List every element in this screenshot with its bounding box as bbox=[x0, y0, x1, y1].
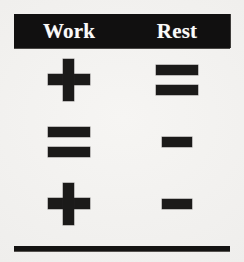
plus-icon bbox=[48, 59, 90, 101]
cell-work-row-3 bbox=[14, 178, 124, 230]
minus-icon bbox=[162, 137, 192, 147]
table-body bbox=[14, 48, 230, 238]
cell-work-row-2 bbox=[14, 116, 124, 168]
equals-icon bbox=[156, 65, 198, 95]
table-row bbox=[14, 116, 230, 168]
table-bottom-rule bbox=[14, 246, 230, 251]
column-header-rest: Rest bbox=[124, 21, 230, 42]
cell-rest-row-3 bbox=[124, 178, 230, 230]
cell-work-row-1 bbox=[14, 54, 124, 106]
table-row bbox=[14, 54, 230, 106]
cell-rest-row-2 bbox=[124, 116, 230, 168]
equals-icon bbox=[48, 127, 90, 157]
plus-icon bbox=[48, 183, 90, 225]
column-header-work: Work bbox=[14, 21, 124, 42]
table-row bbox=[14, 178, 230, 230]
page-sheet: Work Rest bbox=[0, 0, 244, 262]
table-header: Work Rest bbox=[14, 14, 230, 48]
minus-icon bbox=[162, 199, 192, 209]
cell-rest-row-1 bbox=[124, 54, 230, 106]
